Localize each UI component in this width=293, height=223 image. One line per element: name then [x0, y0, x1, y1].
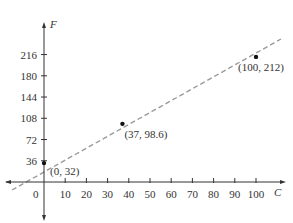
y-ticks: 3672108144180216: [21, 49, 48, 167]
x-tick-label: 80: [208, 188, 220, 200]
y-tick-label: 36: [26, 155, 38, 167]
data-points: (0, 32)(37, 98.6)(100, 212): [42, 55, 284, 178]
data-point-label: (100, 212): [238, 61, 284, 74]
x-axis-label: C: [274, 186, 282, 198]
x-tick-label: 40: [123, 188, 135, 200]
y-axis-arrow-up: [42, 22, 46, 28]
x-axis-arrow-right: [280, 180, 286, 184]
y-axis-label: F: [49, 18, 57, 30]
x-tick-label: 60: [166, 188, 178, 200]
x-tick-label: 30: [102, 188, 114, 200]
data-point-label: (0, 32): [50, 165, 80, 178]
data-point-label: (37, 98.6): [124, 128, 167, 141]
y-tick-label: 216: [21, 49, 38, 61]
x-tick-label: 100: [248, 188, 265, 200]
data-point: [120, 122, 124, 126]
y-axis-arrow-down: [42, 215, 46, 221]
x-tick-label: 10: [60, 188, 72, 200]
x-tick-label: 70: [187, 188, 199, 200]
origin-label: 0: [33, 188, 39, 200]
x-tick-label: 20: [81, 188, 93, 200]
y-tick-label: 108: [21, 112, 38, 124]
x-ticks: 102030405060708090100: [60, 178, 265, 200]
x-tick-label: 50: [145, 188, 157, 200]
chart: 102030405060708090100 3672108144180216 (…: [0, 0, 293, 223]
y-tick-label: 72: [26, 134, 37, 146]
y-tick-label: 144: [21, 91, 38, 103]
data-point: [254, 55, 258, 59]
y-tick-label: 180: [21, 70, 38, 82]
x-tick-label: 90: [229, 188, 241, 200]
data-point: [42, 161, 46, 165]
x-axis-arrow-left: [5, 180, 11, 184]
